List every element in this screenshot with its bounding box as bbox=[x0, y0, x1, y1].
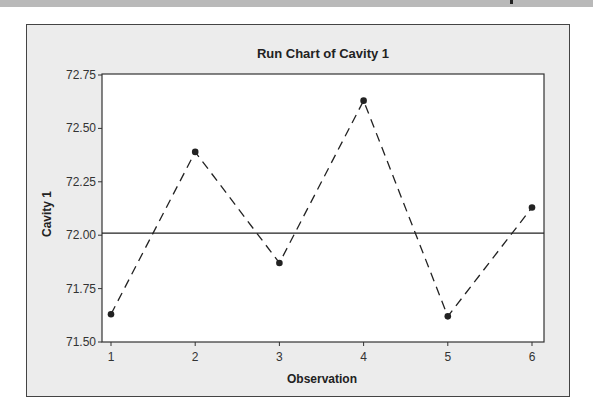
y-axis-title: Cavity 1 bbox=[40, 191, 54, 237]
y-tick-label: 72.25 bbox=[66, 175, 96, 189]
run-chart: Run Chart of Cavity 1 71.5071.7572.0072.… bbox=[0, 0, 593, 416]
x-tick-label: 6 bbox=[529, 350, 536, 364]
y-tick-label: 72.50 bbox=[66, 121, 96, 135]
x-tick-label: 2 bbox=[192, 350, 199, 364]
chart-title: Run Chart of Cavity 1 bbox=[257, 46, 389, 61]
y-tick-label: 72.00 bbox=[66, 228, 96, 242]
x-tick-label: 4 bbox=[360, 350, 367, 364]
y-tick-label: 71.75 bbox=[66, 282, 96, 296]
x-tick-label: 3 bbox=[276, 350, 283, 364]
x-axis: 123456 bbox=[108, 342, 536, 364]
x-axis-title: Observation bbox=[287, 372, 357, 386]
data-point-marker bbox=[529, 204, 536, 211]
plot-area bbox=[102, 74, 544, 342]
y-tick-label: 71.50 bbox=[66, 335, 96, 349]
data-point-marker bbox=[445, 313, 452, 320]
data-point-marker bbox=[360, 97, 367, 104]
data-point-marker bbox=[108, 311, 115, 318]
x-tick-label: 5 bbox=[444, 350, 451, 364]
x-tick-label: 1 bbox=[108, 350, 115, 364]
y-tick-label: 72.75 bbox=[66, 68, 96, 82]
data-point-marker bbox=[276, 260, 283, 267]
y-axis: 71.5071.7572.0072.2572.5072.75 bbox=[66, 68, 102, 349]
data-point-marker bbox=[192, 149, 199, 156]
